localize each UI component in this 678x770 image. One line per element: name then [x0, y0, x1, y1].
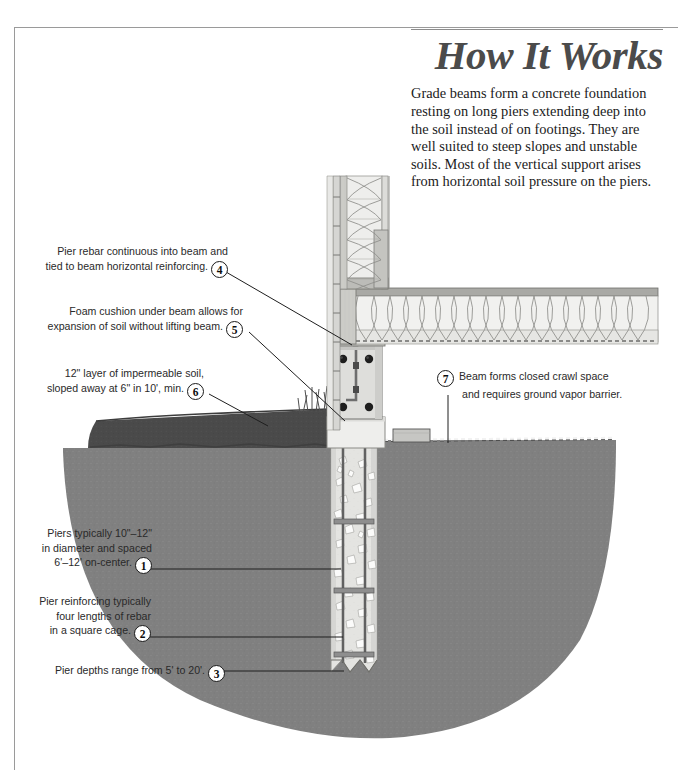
- callout-2-line-3: in a square cage.: [50, 624, 131, 636]
- callout-5-line-2: expansion of soil without lifting beam.: [48, 320, 224, 332]
- callout-4-line-2: tied to beam horizontal reinforcing.: [45, 260, 208, 272]
- callout-7-line-2: and requires ground vapor barrier.: [462, 387, 622, 402]
- callout-2-badge[interactable]: 2: [134, 625, 151, 642]
- callout-1-line-3: 6'–12' on-center.: [54, 556, 132, 568]
- diagram-page: How It Works Grade beams form a concrete…: [0, 0, 678, 770]
- lap-siding: [327, 176, 340, 430]
- callout-7: 7Beam forms closed crawl space and requi…: [437, 369, 622, 402]
- callout-4: Pier rebar continuous into beam and tied…: [28, 244, 228, 278]
- impermeable-soil-layer: [88, 409, 330, 448]
- wall-assembly: [340, 176, 389, 289]
- callout-2: Pier reinforcing typically four lengths …: [28, 594, 151, 642]
- callout-6-line-2-wrap: sloped away at 6" in 10', min.6: [28, 381, 204, 400]
- callout-7-line-1: Beam forms closed crawl space: [459, 370, 609, 382]
- callout-7-badge[interactable]: 7: [437, 370, 454, 387]
- callout-1: Piers typically 10"–12" in diameter and …: [28, 526, 152, 574]
- callout-6-line-1: 12" layer of impermeable soil,: [28, 366, 204, 381]
- callout-4-badge[interactable]: 4: [211, 261, 228, 278]
- callout-5-badge[interactable]: 5: [226, 321, 243, 338]
- callout-6-line-2: sloped away at 6" in 10', min.: [47, 382, 184, 394]
- callout-6: 12" layer of impermeable soil, sloped aw…: [28, 366, 204, 400]
- callout-1-line-2: in diameter and spaced: [28, 541, 152, 556]
- callout-3: Pier depths range from 5' to 20'.3: [28, 663, 225, 682]
- callout-2-line-3-wrap: in a square cage.2: [28, 623, 151, 642]
- callout-4-line-2-wrap: tied to beam horizontal reinforcing.4: [28, 259, 228, 278]
- callout-5-line-2-wrap: expansion of soil without lifting beam.5: [28, 319, 243, 338]
- callout-5-line-1: Foam cushion under beam allows for: [28, 304, 243, 319]
- callout-1-line-1: Piers typically 10"–12": [28, 526, 152, 541]
- callout-5: Foam cushion under beam allows for expan…: [28, 304, 243, 338]
- crawl-space-block: [393, 429, 430, 442]
- callout-3-line-1: Pier depths range from 5' to 20'.: [55, 664, 205, 676]
- callout-2-line-1: Pier reinforcing typically: [28, 594, 151, 609]
- callout-1-line-3-wrap: 6'–12' on-center.1: [28, 555, 152, 574]
- callout-1-badge[interactable]: 1: [135, 557, 152, 574]
- callout-2-line-2: four lengths of rebar: [28, 609, 151, 624]
- callout-3-badge[interactable]: 3: [208, 665, 225, 682]
- callout-4-line-1: Pier rebar continuous into beam and: [28, 244, 228, 259]
- callout-6-badge[interactable]: 6: [187, 383, 204, 400]
- rim-joist: [340, 288, 356, 344]
- callout-3-line-1-wrap: Pier depths range from 5' to 20'.3: [28, 663, 225, 682]
